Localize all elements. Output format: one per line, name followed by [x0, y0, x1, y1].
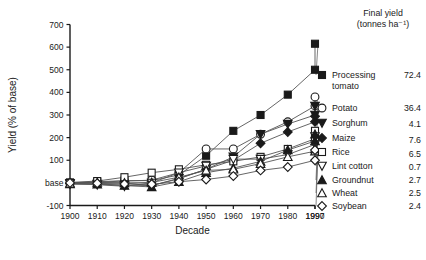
series-line — [70, 44, 315, 183]
open-down-triangle-marker — [318, 162, 327, 170]
legend-label: Lint cotton — [332, 161, 373, 171]
axes — [70, 25, 315, 206]
legend-label: Rice — [332, 147, 350, 157]
x-tick-label: 1970 — [251, 211, 270, 221]
legend-label: Maize — [332, 133, 356, 143]
legend-marker-lint-cotton — [318, 162, 327, 170]
open-up-triangle-marker — [318, 189, 327, 197]
filled-square-marker — [312, 40, 319, 47]
open-circle-marker — [229, 145, 237, 153]
legend-marker-groundnut — [318, 176, 327, 184]
legend-marker-processing-tomato — [319, 72, 326, 79]
legend-value: 2.4 — [409, 201, 421, 211]
legend-marker-soybean — [318, 202, 327, 211]
series-line — [70, 97, 315, 183]
filled-square-marker — [319, 72, 326, 79]
filled-diamond-marker — [283, 128, 292, 137]
filled-square-marker — [230, 127, 237, 134]
legend: Final yield(tonnes ha⁻¹)Processingtomato… — [318, 8, 422, 211]
open-square-marker — [319, 149, 326, 156]
legend-marker-rice — [319, 149, 326, 156]
filled-square-marker — [284, 91, 291, 98]
chart-figure: 700600500400300200100base-10019001910192… — [0, 0, 426, 260]
legend-value: 4.1 — [409, 119, 421, 129]
x-tick-label: 1930 — [142, 211, 161, 221]
y-axis-title: Yield (% of base) — [7, 77, 18, 153]
open-square-marker — [148, 169, 155, 176]
plot-area — [66, 40, 320, 190]
open-circle-marker — [202, 145, 210, 153]
x-axis-ticks: 1900191019201930194019501960197019801990… — [61, 206, 325, 222]
legend-label: Sorghum — [332, 118, 368, 128]
series-processing-tomato — [67, 40, 319, 186]
x-tick-label: 1997 — [306, 211, 325, 221]
legend-value: 2.5 — [409, 188, 421, 198]
filled-square-marker — [257, 112, 264, 119]
x-tick-label: 1950 — [197, 211, 216, 221]
x-tick-label: 1940 — [169, 211, 188, 221]
filled-diamond-marker — [256, 139, 265, 148]
legend-label: Potato — [332, 103, 358, 113]
open-diamond-marker — [318, 202, 327, 211]
x-axis-title: Decade — [175, 225, 210, 236]
x-tick-label: 1920 — [115, 211, 134, 221]
y-tick-label: 600 — [49, 42, 63, 52]
y-tick-label: 400 — [49, 87, 63, 97]
legend-header-line1: Final yield — [363, 8, 403, 18]
y-tick-label: base — [45, 178, 64, 188]
legend-marker-potato — [318, 104, 326, 112]
y-tick-label: 200 — [49, 133, 63, 143]
legend-value: 0.7 — [409, 162, 421, 172]
legend-value: 72.4 — [404, 70, 421, 80]
legend-marker-wheat — [318, 189, 327, 197]
legend-value: 2.7 — [409, 175, 421, 185]
legend-value: 6.5 — [409, 149, 421, 159]
y-tick-label: 700 — [49, 20, 63, 30]
open-diamond-marker — [283, 163, 292, 172]
legend-label-cont: tomato — [332, 81, 359, 91]
filled-up-triangle-marker — [318, 176, 327, 184]
legend-label: Groundnut — [332, 175, 374, 185]
y-tick-label: 500 — [49, 65, 63, 75]
yield-trend-line-chart: 700600500400300200100base-10019001910192… — [0, 0, 426, 260]
y-tick-label: -100 — [46, 201, 63, 211]
filled-down-triangle-marker — [318, 119, 327, 127]
legend-label: Soybean — [332, 201, 367, 211]
series-potato — [66, 93, 319, 187]
y-tick-label: 100 — [49, 155, 63, 165]
legend-label: Processing — [332, 70, 376, 80]
open-circle-marker — [318, 104, 326, 112]
legend-marker-sorghum — [318, 119, 327, 127]
x-tick-label: 1980 — [278, 211, 297, 221]
series-sorghum — [66, 102, 320, 190]
legend-value: 36.4 — [404, 103, 421, 113]
x-tick-label: 1910 — [88, 211, 107, 221]
open-circle-marker — [311, 93, 319, 101]
legend-label: Wheat — [332, 188, 358, 198]
x-tick-label: 1900 — [61, 211, 80, 221]
legend-header-line2: (tonnes ha⁻¹) — [357, 19, 409, 29]
x-tick-label: 1960 — [224, 211, 243, 221]
filled-square-marker — [312, 66, 319, 73]
legend-value: 7.6 — [409, 135, 421, 145]
y-tick-label: 300 — [49, 110, 63, 120]
